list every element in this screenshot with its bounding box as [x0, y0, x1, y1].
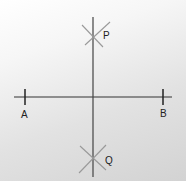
diagram-canvas: P Q A B	[0, 0, 186, 185]
construction-svg: P Q A B	[0, 0, 186, 185]
bottom-border	[0, 181, 186, 185]
label-p: P	[103, 30, 110, 41]
label-q: Q	[105, 155, 113, 166]
label-a: A	[21, 109, 28, 120]
label-b: B	[160, 108, 167, 119]
